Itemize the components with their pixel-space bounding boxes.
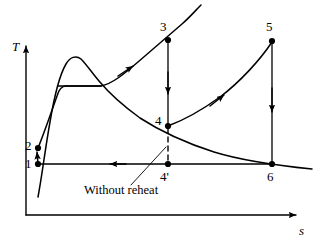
boiler-superheat-curve-2-3: [38, 5, 201, 148]
ts-diagram-figure: T s 1 2 3 4 4' 5 6 Without reheat: [0, 0, 327, 245]
state-label-2: 2: [25, 139, 32, 152]
state-label-6: 6: [267, 170, 274, 183]
state-point-6-dot: [269, 161, 275, 167]
state-label-3: 3: [160, 20, 167, 33]
y-axis-label: T: [12, 40, 19, 53]
state-point-4-dot: [165, 123, 171, 129]
state-label-4: 4: [155, 114, 162, 127]
x-axis-label: s: [299, 224, 304, 237]
state-label-1: 1: [25, 157, 32, 170]
state-point-3-dot: [165, 37, 171, 43]
ts-diagram-canvas: [0, 0, 327, 245]
state-point-5-dot: [269, 38, 275, 44]
reheat-flow-arrow: [210, 95, 224, 106]
without-reheat-annotation: Without reheat: [84, 184, 158, 197]
state-point-4prime-dot: [165, 161, 171, 167]
state-label-4-prime: 4': [160, 170, 169, 183]
state-point-2-dot: [35, 145, 41, 151]
state-label-5: 5: [266, 20, 273, 33]
reheat-curve-4-5: [168, 42, 272, 126]
boiler-flow-arrow: [118, 66, 133, 76]
state-point-1-dot: [35, 161, 41, 167]
